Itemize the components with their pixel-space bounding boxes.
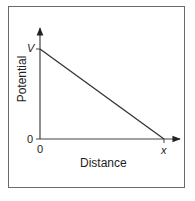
x-tick-label-x: x xyxy=(161,145,167,156)
x-tick-label-0: 0 xyxy=(37,144,43,155)
y-axis-title: Potential xyxy=(15,49,29,109)
x-axis-title: Distance xyxy=(80,158,127,169)
data-line xyxy=(40,49,164,139)
chart-plot xyxy=(0,0,195,201)
y-tick-label-0: 0 xyxy=(27,134,33,145)
